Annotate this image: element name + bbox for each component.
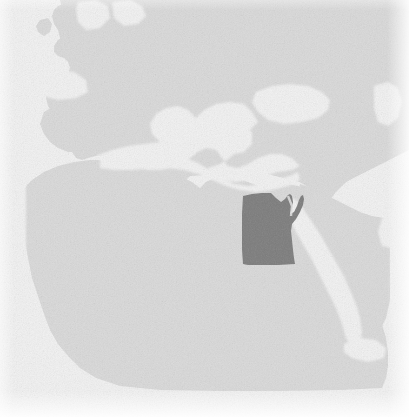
locator-map-figure: Location map of Egypt Egypt Surrounding … (0, 0, 409, 417)
map-canvas (0, 0, 409, 417)
svg-grain (0, 0, 409, 417)
